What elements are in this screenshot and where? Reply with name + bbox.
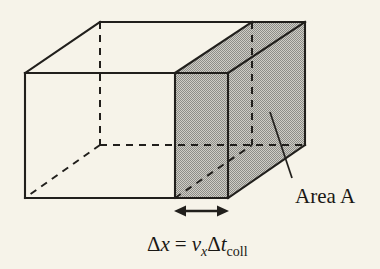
formula-equals: =	[175, 232, 187, 256]
formula-sub-coll: coll	[227, 244, 248, 259]
formula-delta-2: Δ	[207, 232, 221, 256]
formula-delta-1: Δ	[147, 232, 161, 256]
collision-slab-diagram: Area A Δx=vxΔtcoll	[0, 0, 380, 269]
area-label: Area A	[295, 184, 356, 208]
area-label-text: Area A	[295, 184, 356, 208]
formula-var-x: x	[160, 232, 171, 256]
